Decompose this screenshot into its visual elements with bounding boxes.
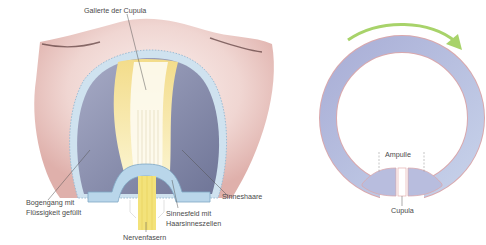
label-cupula-gel: Gallerte der Cupula — [84, 6, 146, 15]
label-sensory-field-line2: Haarsinneszellen — [166, 219, 221, 228]
label-canal-line1: Bogengang mit — [26, 198, 74, 207]
label-canal-line2: Flüssigkeit gefüllt — [26, 208, 81, 217]
cupula-barrier — [398, 168, 406, 196]
label-nerve-fibers: Nervenfasern — [123, 233, 166, 242]
ring-illustration — [328, 24, 476, 206]
diagram-stage: Gallerte der Cupula Bogengang mit Flüssi… — [0, 0, 486, 245]
label-sensory-field-line1: Sinnesfeld mit — [166, 209, 211, 218]
label-ampulla: Ampulle — [385, 150, 411, 159]
label-cupula: Cupula — [391, 206, 414, 215]
label-sensory-hairs: Sinneshaare — [222, 192, 262, 201]
cupula-white-core — [130, 62, 168, 172]
